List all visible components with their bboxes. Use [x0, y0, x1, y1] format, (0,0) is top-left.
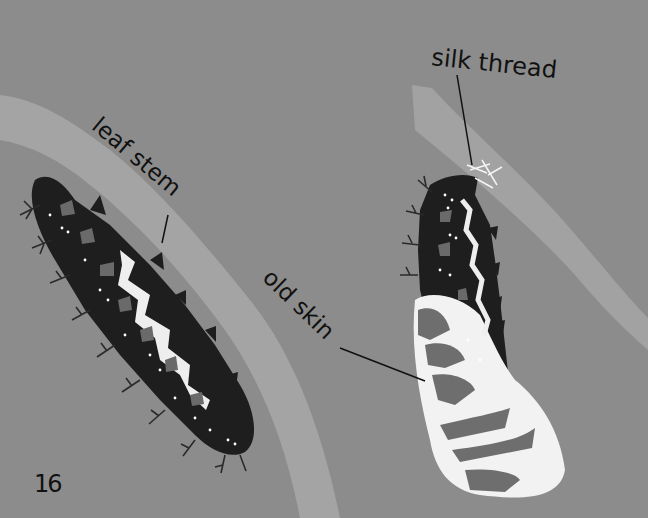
old-skin-pointer	[340, 348, 425, 381]
page-number: 16	[34, 470, 61, 498]
book-page: leaf stem silk thread old skin 16	[0, 0, 648, 518]
